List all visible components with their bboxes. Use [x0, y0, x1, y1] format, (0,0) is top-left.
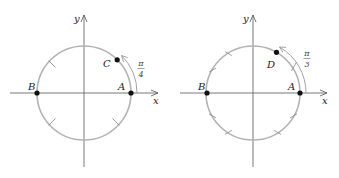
label-c: C: [103, 58, 111, 69]
point-c: [115, 57, 120, 62]
svg-text:π: π: [303, 49, 310, 58]
label-b: B: [27, 81, 35, 92]
label-a: A: [117, 81, 125, 92]
point-a: [128, 90, 133, 95]
label-d: D: [266, 59, 275, 70]
svg-text:3: 3: [304, 60, 309, 69]
left-diagram: A B C x y π 4: [10, 13, 159, 167]
point-a: [297, 90, 302, 95]
x-axis-label: x: [153, 95, 159, 106]
angle-label-pi-over-4: π 4: [137, 59, 144, 79]
point-d: [274, 50, 279, 55]
y-axis-label: y: [73, 13, 80, 24]
label-a: A: [287, 81, 295, 92]
right-diagram: A B D x y π 3: [180, 13, 328, 167]
unit-circle-diagrams: A B C x y π 4: [0, 0, 339, 178]
angle-label-pi-over-3: π 3: [303, 49, 310, 69]
svg-text:4: 4: [137, 70, 143, 79]
label-b: B: [197, 81, 205, 92]
svg-text:π: π: [137, 59, 144, 68]
x-axis-label: x: [322, 95, 328, 106]
y-axis-label: y: [242, 13, 249, 24]
